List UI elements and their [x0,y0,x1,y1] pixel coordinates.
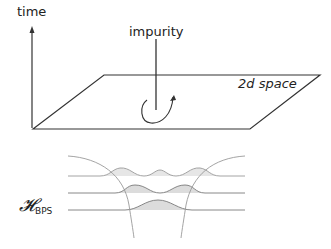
time-axis-label: time [17,4,46,19]
hilbert-subscript: BPS [35,206,52,216]
impurity-label: impurity [129,24,184,39]
time-axis [30,26,35,128]
bps-states-plot [68,156,245,238]
state-line-middle [68,185,245,193]
potential-curve-right [181,156,245,238]
rotation-arrow-icon [142,95,176,123]
hilbert-space-label: 𝓗BPS [19,194,52,216]
plane-label: 2d space [238,76,297,91]
hilbert-symbol: 𝓗 [19,194,35,215]
